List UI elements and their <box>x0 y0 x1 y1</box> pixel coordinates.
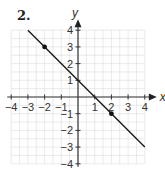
y-tick-label: −1 <box>60 108 73 120</box>
y-axis-arrow-icon <box>75 19 82 27</box>
y-tick-label: 4 <box>67 24 73 36</box>
y-tick-label: 1 <box>67 74 73 86</box>
y-tick-label: 3 <box>67 41 73 53</box>
data-point <box>42 45 47 50</box>
x-tick-label: −3 <box>22 101 35 113</box>
x-axis-label: x <box>159 90 165 104</box>
y-axis-label: y <box>71 6 79 20</box>
x-tick-label: 3 <box>125 101 131 113</box>
y-tick-label: 2 <box>67 58 73 70</box>
coordinate-plot: −4−3−2−112344321−1−2−3−4xy <box>0 0 165 170</box>
x-tick-label: 1 <box>92 101 98 113</box>
data-point <box>109 111 114 116</box>
y-tick-label: −2 <box>60 124 73 136</box>
y-tick-label: −3 <box>60 141 73 153</box>
x-axis-arrow-icon <box>149 94 157 101</box>
x-tick-label: 4 <box>142 101 148 113</box>
x-tick-label: −4 <box>5 101 18 113</box>
x-tick-label: −2 <box>38 101 51 113</box>
y-tick-label: −4 <box>60 158 73 170</box>
